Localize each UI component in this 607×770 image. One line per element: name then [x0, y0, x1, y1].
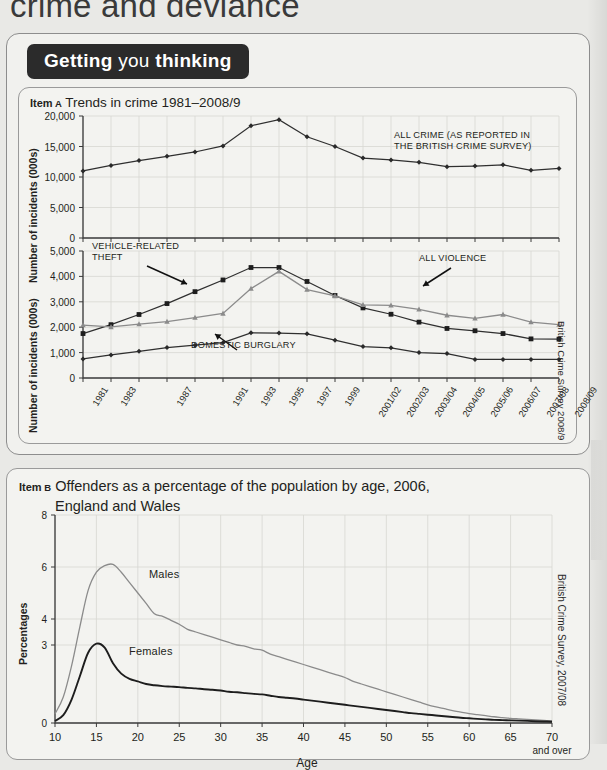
x-tick-label: 65 — [504, 731, 516, 743]
x-tick-label: 40 — [297, 731, 309, 743]
y-tick-label: 5,000 — [19, 202, 75, 213]
y-tick-label: 6 — [7, 562, 47, 573]
banner-word-1: Getting — [44, 50, 113, 71]
x-tick-label: 2008/09 — [573, 385, 599, 419]
y-tick-label: 10,000 — [19, 172, 75, 183]
item-a-source: British Crime Survey 2008/9 — [556, 321, 567, 440]
item-b-panel: Item B Offenders as a percentage of the … — [6, 468, 590, 760]
y-tick-label: 3,000 — [19, 296, 75, 307]
y-tick-label: 0 — [19, 373, 75, 384]
y-tick-label: 15,000 — [19, 141, 75, 152]
chapter-title: crime and deviance — [10, 0, 300, 25]
banner-word-2: you — [118, 50, 150, 71]
x-tick-label: 60 — [463, 731, 475, 743]
y-tick-label: 3 — [7, 640, 47, 651]
x-tick-label: 15 — [90, 731, 102, 743]
x-tick-label: 30 — [215, 731, 227, 743]
x-tick-label: 70 — [546, 731, 558, 743]
x-tick-label: 55 — [422, 731, 434, 743]
page-edge-watermark — [591, 440, 605, 560]
getting-you-thinking-banner: Getting you thinking — [27, 44, 249, 79]
y-tick-label: 5,000 — [19, 246, 75, 257]
y-tick-label: 4 — [7, 614, 47, 625]
y-tick-label: 2,000 — [19, 322, 75, 333]
banner-word-3: thinking — [155, 50, 231, 71]
item-b-source: British Crime Survey, 2007/08 — [556, 574, 567, 706]
series-label-males: Males — [149, 569, 179, 580]
annotation-all-crime: ALL CRIME (AS REPORTED IN THE BRITISH CR… — [394, 130, 532, 152]
series-label-females: Females — [129, 646, 173, 657]
y-tick-label: 4,000 — [19, 271, 75, 282]
y-tick-label: 8 — [7, 510, 47, 521]
x-tick-and-over-note: and over — [533, 745, 572, 756]
annotation-vehicle-theft: VEHICLE-RELATED THEFT — [92, 241, 179, 263]
x-tick-label: 50 — [380, 731, 392, 743]
x-tick-label: 25 — [173, 731, 185, 743]
item-b-chart: 0346810152025303540455055606570and overA… — [7, 469, 589, 759]
x-tick-label: 20 — [132, 731, 144, 743]
y-tick-label: 1,000 — [19, 347, 75, 358]
annotation-domestic-burglary: DOMESTIC BURGLARY — [191, 340, 296, 351]
x-tick-label: 35 — [256, 731, 268, 743]
item-a-panel: Item A Trends in crime 1981–2008/9 Numbe… — [18, 87, 577, 444]
item-b-xlabel: Age — [296, 756, 317, 770]
page-edge-shadow — [587, 0, 607, 744]
y-tick-label: 20,000 — [19, 111, 75, 122]
y-tick-label: 0 — [7, 718, 47, 729]
annotation-all-violence: ALL VIOLENCE — [419, 253, 486, 264]
x-tick-label: 45 — [339, 731, 351, 743]
getting-you-thinking-card: Getting you thinking Item A Trends in cr… — [6, 33, 590, 455]
y-tick-label: 0 — [19, 233, 75, 244]
x-tick-label: 10 — [49, 731, 61, 743]
